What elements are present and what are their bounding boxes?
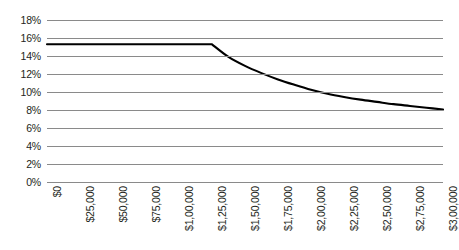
gridline [47,146,443,147]
gridline [47,110,443,111]
x-tick-label: $3,00,000 [447,186,459,231]
y-tick-label: 2% [26,158,41,170]
y-tick-label: 10% [21,86,41,98]
x-tick-label: $2,75,000 [414,186,426,231]
gridline [47,20,443,21]
x-tick-label: $1,75,000 [282,186,294,231]
x-tick-label: $0 [51,186,63,197]
x-tick-label: $25,000 [84,186,96,223]
x-tick-label: $2,50,000 [381,186,393,231]
x-tick-label: $75,000 [150,186,162,223]
x-tick-label: $50,000 [117,186,129,223]
x-tick-label: $2,00,000 [315,186,327,231]
y-tick-label: 8% [26,104,41,116]
plot-area [47,20,443,182]
gridline [47,74,443,75]
data-series-line [47,20,443,182]
effective-rate-line [47,44,443,109]
y-tick-label: 18% [21,14,41,26]
gridline [47,38,443,39]
y-tick-label: 16% [21,32,41,44]
x-tick-label: $1,50,000 [249,186,261,231]
y-tick-label: 12% [21,68,41,80]
gridline [47,56,443,57]
gridline [47,128,443,129]
x-axis: $0$25,000$50,000$75,000$1,00,000$1,25,00… [0,182,457,250]
gridline [47,164,443,165]
x-tick-label: $1,00,000 [183,186,195,231]
y-tick-label: 4% [26,140,41,152]
x-tick-label: $1,25,000 [216,186,228,231]
y-tick-label: 6% [26,122,41,134]
x-tick-label: $2,25,000 [348,186,360,231]
y-tick-label: 14% [21,50,41,62]
gridline [47,92,443,93]
